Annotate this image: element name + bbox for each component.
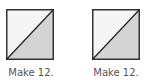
figure-caption: Make 12. [86, 67, 146, 78]
diagonal-square-icon [6, 9, 54, 60]
diagonal-square-icon [92, 9, 140, 60]
figure-1: Make 12. [0, 0, 60, 82]
figure-2: Make 12. [86, 0, 146, 82]
figure-caption: Make 12. [1, 67, 61, 78]
